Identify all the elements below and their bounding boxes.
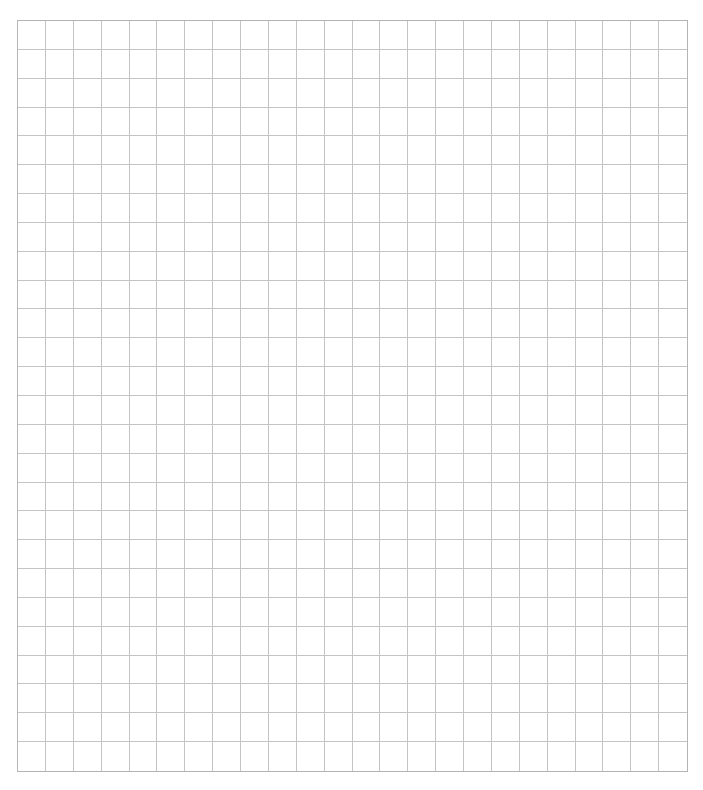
grid-cell [631, 21, 659, 50]
grid-cell [18, 569, 46, 598]
grid-cell [213, 194, 241, 223]
grid-cell [659, 50, 687, 79]
grid-cell [659, 713, 687, 742]
grid-cell [576, 483, 604, 512]
grid-cell [520, 367, 548, 396]
grid-cell [492, 338, 520, 367]
grid-cell [18, 713, 46, 742]
grid-cell [102, 627, 130, 656]
grid-cell [520, 136, 548, 165]
grid-cell [548, 309, 576, 338]
grid-cell [464, 136, 492, 165]
grid-cell [631, 540, 659, 569]
grid-cell [241, 511, 269, 540]
grid-cell [185, 511, 213, 540]
grid-cell [631, 627, 659, 656]
grid-cell [46, 165, 74, 194]
grid-cell [631, 194, 659, 223]
grid-cell [185, 627, 213, 656]
grid-cell [102, 165, 130, 194]
grid-cell [74, 656, 102, 685]
grid-cell [297, 713, 325, 742]
grid-cell [659, 569, 687, 598]
grid-cell [631, 483, 659, 512]
grid-cell [18, 338, 46, 367]
grid-cell [380, 108, 408, 137]
grid-cell [353, 136, 381, 165]
grid-cell [353, 21, 381, 50]
grid-cell [241, 367, 269, 396]
grid-cell [46, 540, 74, 569]
grid-cell [464, 165, 492, 194]
grid-cell [464, 309, 492, 338]
grid-cell [520, 569, 548, 598]
grid-cell [436, 684, 464, 713]
grid-cell [157, 627, 185, 656]
grid-cell [241, 309, 269, 338]
grid-cell [74, 396, 102, 425]
grid-cell [436, 540, 464, 569]
grid-cell [102, 713, 130, 742]
grid-cell [213, 483, 241, 512]
grid-cell [157, 252, 185, 281]
grid-cell [241, 136, 269, 165]
grid-cell [74, 165, 102, 194]
grid-cell [18, 21, 46, 50]
grid-cell [157, 309, 185, 338]
grid-cell [185, 656, 213, 685]
grid-cell [130, 309, 158, 338]
grid-cell [269, 425, 297, 454]
grid-cell [157, 684, 185, 713]
grid-cell [130, 367, 158, 396]
grid-cell [520, 252, 548, 281]
grid-cell [102, 281, 130, 310]
grid-cell [102, 136, 130, 165]
grid-cell [464, 483, 492, 512]
grid-cell [297, 483, 325, 512]
grid-cell [436, 108, 464, 137]
grid-cell [130, 136, 158, 165]
grid-cell [269, 598, 297, 627]
grid-cell [464, 540, 492, 569]
grid-cell [297, 252, 325, 281]
grid-cell [659, 684, 687, 713]
grid-cell [436, 627, 464, 656]
grid-cell [46, 742, 74, 771]
grid-cell [241, 108, 269, 137]
grid-cell [241, 684, 269, 713]
grid-cell [185, 252, 213, 281]
grid-cell [548, 396, 576, 425]
grid-cell [185, 223, 213, 252]
grid-cell [102, 425, 130, 454]
grid-cell [157, 425, 185, 454]
grid-cell [631, 79, 659, 108]
grid-cell [297, 309, 325, 338]
grid-cell [520, 21, 548, 50]
grid-cell [325, 252, 353, 281]
grid-cell [157, 569, 185, 598]
grid-cell [408, 223, 436, 252]
grid-cell [269, 165, 297, 194]
grid-cell [492, 627, 520, 656]
grid-cell [380, 79, 408, 108]
grid-cell [130, 338, 158, 367]
grid-cell [157, 483, 185, 512]
grid-cell [520, 338, 548, 367]
grid-cell [603, 598, 631, 627]
grid-cell [157, 108, 185, 137]
grid-cell [380, 165, 408, 194]
grid-cell [297, 165, 325, 194]
grid-cell [631, 223, 659, 252]
grid-cell [408, 79, 436, 108]
grid-cell [576, 598, 604, 627]
grid-cell [436, 309, 464, 338]
grid-cell [46, 108, 74, 137]
grid-cell [102, 598, 130, 627]
grid-cell [380, 338, 408, 367]
grid-cell [603, 281, 631, 310]
grid-cell [74, 598, 102, 627]
grid-cell [185, 742, 213, 771]
grid-cell [102, 79, 130, 108]
grid-cell [213, 540, 241, 569]
grid-cell [380, 511, 408, 540]
